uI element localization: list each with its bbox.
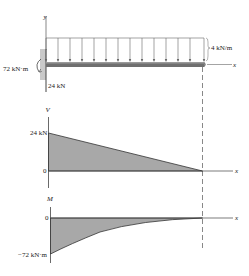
load-height-bracket: [206, 38, 210, 61]
beam-diagram-figure: y: [0, 0, 249, 276]
moment-axis-label: M: [46, 195, 54, 203]
shear-x-axis-label: x: [234, 167, 239, 175]
distributed-load-label: 4 kN/m: [211, 44, 233, 52]
force-reaction-label: 24 kN: [48, 82, 65, 90]
shear-area: [49, 133, 203, 171]
moment-diagram: M x 0 −72 kN·m: [18, 195, 239, 263]
moment-reaction-label: 72 kN·m: [3, 65, 29, 73]
beam-x-axis-label: x: [232, 61, 237, 69]
shear-max-label: 24 kN: [30, 129, 47, 137]
shear-zero-label: 0: [43, 167, 47, 175]
moment-x-axis-label: x: [234, 214, 239, 222]
shear-diagram: V x 24 kN 0: [30, 106, 239, 188]
free-body-diagram: y: [3, 13, 237, 92]
moment-zero-label: 0: [45, 214, 49, 222]
y-axis-label: y: [43, 13, 48, 21]
shear-axis-label: V: [46, 106, 51, 114]
fixed-support-wall: [40, 49, 46, 80]
distributed-load: [45, 38, 205, 62]
moment-area: [51, 218, 203, 254]
moment-min-label: −72 kN·m: [18, 251, 48, 259]
